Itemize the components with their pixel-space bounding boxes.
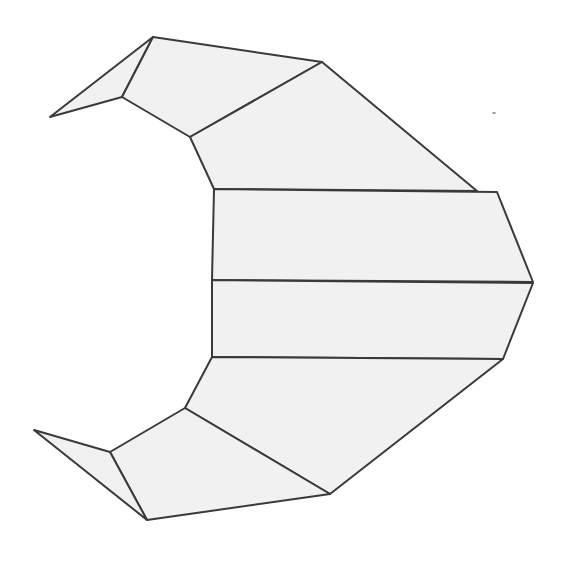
polygon-figure bbox=[0, 0, 571, 562]
upper-band bbox=[212, 189, 533, 282]
lower-band bbox=[212, 280, 533, 359]
speck bbox=[492, 112, 496, 114]
